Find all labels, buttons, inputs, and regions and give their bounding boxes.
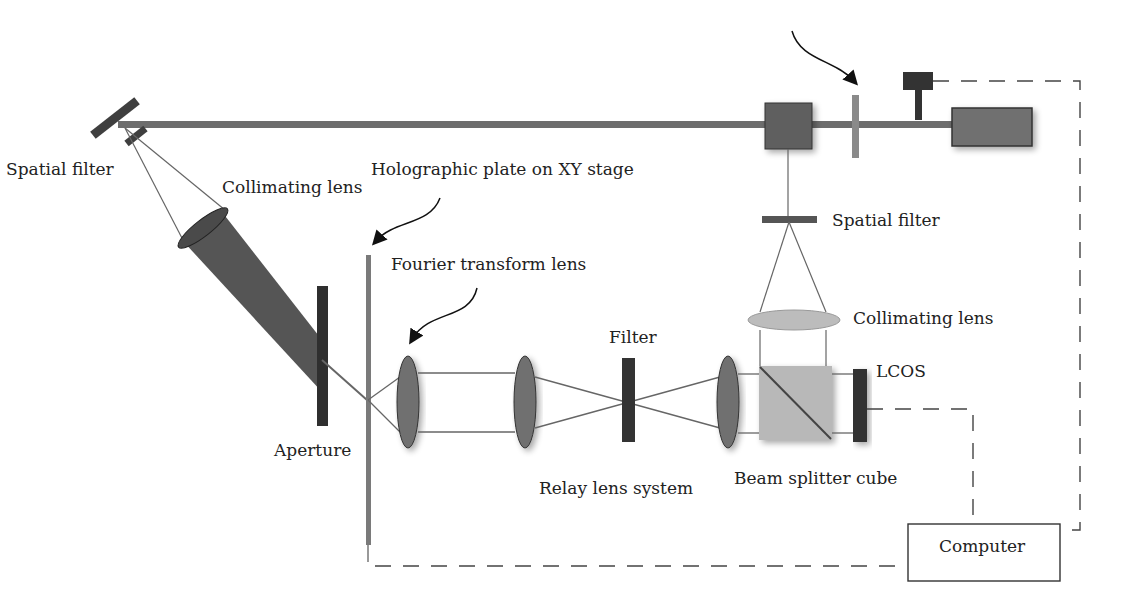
control-line-lcos [867, 409, 973, 524]
holographic-plate-arrow [377, 198, 440, 240]
collimating-lens-right [748, 310, 840, 330]
label-relay-lens: Relay lens system [539, 478, 693, 498]
fourier-filter [622, 358, 635, 442]
mirror-top-left [90, 97, 140, 139]
optical-setup-diagram: Spatial filter Collimating lens Holograp… [0, 0, 1122, 612]
label-fourier-lens: Fourier transform lens [391, 254, 586, 274]
label-collimating-lens-right: Collimating lens [853, 308, 993, 328]
fourier-lens-arrow [413, 288, 477, 338]
aperture [317, 286, 328, 426]
ray [760, 222, 789, 312]
label-holographic-plate: Holographic plate on XY stage [371, 159, 634, 179]
label-aperture: Aperture [273, 440, 351, 460]
polarizing-beam-splitter [765, 103, 812, 149]
label-lcos: LCOS [876, 361, 926, 381]
ray [125, 128, 225, 210]
label-spatial-filter-left: Spatial filter [6, 159, 115, 179]
control-line-shutter [933, 81, 1080, 530]
ray [368, 377, 400, 400]
main-laser-beam [118, 121, 956, 128]
ray [368, 400, 400, 432]
label-collimating-lens-left: Collimating lens [222, 177, 362, 197]
ray [789, 222, 826, 312]
label-computer: Computer [939, 536, 1026, 556]
label-filter: Filter [609, 327, 658, 347]
relay-lens-1 [514, 356, 536, 448]
waveplate-arrow [792, 31, 853, 80]
label-beam-splitter: Beam splitter cube [734, 468, 897, 488]
laser-source [952, 108, 1032, 146]
shutter-stem [915, 90, 922, 120]
lcos-display [853, 369, 867, 442]
relay-lens-2 [717, 356, 739, 448]
ray [125, 128, 184, 242]
label-spatial-filter-right: Spatial filter [832, 210, 941, 230]
object-beam [182, 212, 322, 392]
waveplate [852, 95, 859, 158]
fourier-transform-lens [397, 356, 419, 448]
ray [322, 360, 367, 400]
shutter-head [903, 72, 933, 90]
